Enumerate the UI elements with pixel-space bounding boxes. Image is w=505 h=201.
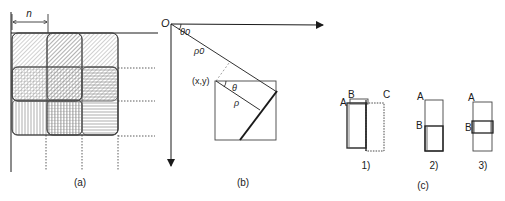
subfigure-3: A B 3) <box>465 92 493 171</box>
tile-mid-right <box>82 67 118 135</box>
theta-arc <box>224 81 226 87</box>
block-C-dashed <box>366 103 384 151</box>
label-B-2: B <box>416 120 423 131</box>
label-C-1: C <box>383 89 390 100</box>
panel-a: n (a) <box>11 8 158 188</box>
panel-b: O θ0 ρ0 (x,y) θ ρ (b) <box>161 17 323 188</box>
caption-2: 2) <box>430 160 439 171</box>
diagram-canvas: n (a) O θ0 ρ0 (x,y) <box>0 0 505 201</box>
block-A-inner <box>349 103 366 148</box>
x-axis <box>171 24 323 25</box>
tile-bottom-mid <box>47 100 82 135</box>
edge-line <box>240 91 277 140</box>
dashed-connector <box>216 63 229 81</box>
caption-3: 3) <box>479 160 488 171</box>
caption-b: (b) <box>237 177 249 188</box>
subfigure-1: A B C 1) <box>340 89 390 171</box>
rho-label: ρ <box>233 98 239 108</box>
caption-c: (c) <box>417 180 429 191</box>
block-B-3 <box>472 121 493 133</box>
block-A-3 <box>473 102 492 151</box>
label-A-3: A <box>468 92 475 103</box>
block-B-2 <box>425 126 443 151</box>
block-A <box>347 103 366 148</box>
origin-label: O <box>161 17 170 29</box>
label-A-1: A <box>340 97 347 108</box>
caption-1: 1) <box>362 160 371 171</box>
dimension-label-n: n <box>26 8 32 19</box>
theta-label: θ <box>232 83 237 93</box>
label-B-1: B <box>348 89 355 100</box>
subfigure-2: A B 2) <box>416 91 443 171</box>
theta0-label: θ0 <box>180 27 190 37</box>
point-label: (x,y) <box>192 76 210 86</box>
label-A-2: A <box>417 91 424 102</box>
rho0-label: ρ0 <box>193 46 204 56</box>
label-B-3: B <box>465 122 472 133</box>
panel-c: A B C 1) A B 2) A B 3) (c) <box>340 89 493 191</box>
caption-a: (a) <box>74 177 86 188</box>
